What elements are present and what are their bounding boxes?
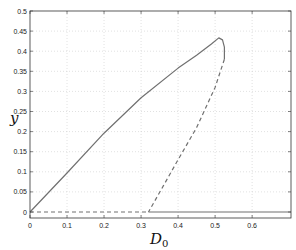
y-tick-label: 0.5: [17, 8, 27, 15]
grid-lines: [30, 11, 291, 218]
x-tick-label: 0.5: [210, 222, 220, 229]
y-tick-label: 0.05: [13, 188, 27, 195]
x-axis-label-main: D: [149, 230, 162, 248]
y-tick-label: 0.3: [17, 88, 27, 95]
axes-frame: [30, 11, 291, 218]
series-line: [30, 38, 224, 212]
y-tick-label: 0.1: [17, 168, 27, 175]
x-tick-label: 0.2: [99, 222, 109, 229]
x-tick-label: 0.6: [247, 222, 257, 229]
y-tick-label: 0.35: [13, 68, 27, 75]
tick-marks: [30, 11, 291, 218]
chart: 00.10.20.30.40.50.600.050.10.150.20.250.…: [0, 0, 296, 250]
x-tick-label: 0.4: [173, 222, 183, 229]
x-tick-label: 0.1: [62, 222, 72, 229]
x-tick-label: 0: [28, 222, 32, 229]
x-axis-label-subscript: 0: [162, 238, 168, 249]
x-tick-label: 0.3: [136, 222, 146, 229]
y-tick-label: 0.2: [17, 128, 27, 135]
y-tick-label: 0.45: [13, 28, 27, 35]
y-axis-label: y: [9, 109, 19, 127]
tick-labels: 00.10.20.30.40.50.600.050.10.150.20.250.…: [13, 8, 257, 230]
x-axis-label: D0: [149, 230, 168, 249]
y-tick-label: 0.4: [17, 48, 27, 55]
y-tick-label: 0: [23, 209, 27, 216]
y-tick-label: 0.15: [13, 148, 27, 155]
